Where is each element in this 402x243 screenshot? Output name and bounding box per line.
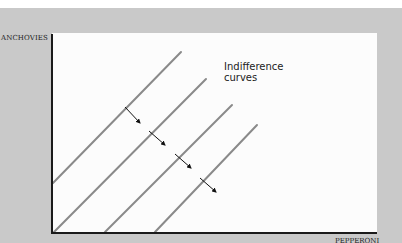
x-axis: [51, 232, 377, 234]
annotation-line-2: curves: [224, 72, 284, 83]
y-axis-label: ANCHOVIES: [1, 34, 48, 42]
curves-annotation: Indifference curves: [224, 61, 284, 83]
x-axis-label: PEPPERONI: [335, 237, 379, 243]
indifference-curves-graphic: [0, 0, 402, 243]
preference-arrow-2: [149, 131, 165, 145]
indifference-curve-2: [54, 79, 206, 232]
y-axis: [51, 34, 53, 234]
indifference-curve-3: [105, 105, 232, 232]
preference-arrow-1: [125, 107, 140, 123]
indifference-curve-1: [53, 52, 181, 183]
annotation-line-1: Indifference: [224, 61, 284, 72]
indifference-curve-4: [155, 125, 257, 232]
preference-arrow-4: [200, 178, 216, 192]
